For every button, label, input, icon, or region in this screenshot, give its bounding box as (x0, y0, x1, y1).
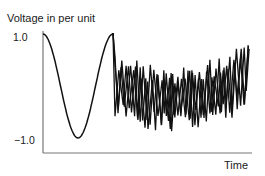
sine-wave-series (43, 34, 113, 138)
chart-plot-area (0, 0, 265, 176)
noisy-waveform-series (113, 33, 249, 131)
